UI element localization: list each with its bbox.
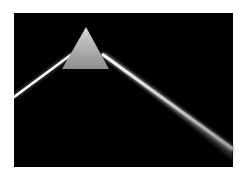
prism-scene	[0, 0, 242, 170]
incoming-light-beam	[14, 54, 72, 97]
prism	[62, 27, 109, 69]
dispersed-light-beam	[101, 53, 233, 160]
